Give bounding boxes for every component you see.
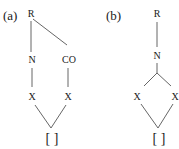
diagram-a-node-right: CO <box>62 54 76 65</box>
edge-b-rightx-bottom <box>158 104 173 128</box>
diagram-canvas: (a) R N CO X X [ ] (b) R N X X [ ] <box>0 0 179 149</box>
diagram-a-node-right-x: X <box>64 91 72 102</box>
diagram-b-node-mid: N <box>153 50 160 61</box>
diagram-a-node-root: R <box>28 8 35 19</box>
diagram-a-label: (a) <box>3 8 17 23</box>
diagram-a-node-left: N <box>28 54 35 65</box>
edge-b-mid-right <box>157 73 171 86</box>
diagram-a-node-bottom: [ ] <box>46 131 59 146</box>
edge-b-leftx-bottom <box>141 104 158 128</box>
diagram-a-node-left-x: X <box>28 91 36 102</box>
edge-b-mid-left <box>144 73 157 86</box>
diagram-b: (b) R N X X [ ] <box>106 8 179 146</box>
diagram-b-node-right-x: X <box>171 91 179 102</box>
diagram-b-label: (b) <box>106 8 121 23</box>
diagram-b-node-root: R <box>154 8 161 19</box>
diagram-a: (a) R N CO X X [ ] <box>3 8 76 146</box>
edge-a-root-right <box>33 19 67 45</box>
edge-a-rightx-bottom <box>51 105 66 128</box>
edge-a-leftx-bottom <box>35 105 51 128</box>
diagram-b-node-left-x: X <box>133 91 141 102</box>
diagram-b-node-bottom: [ ] <box>153 131 166 146</box>
